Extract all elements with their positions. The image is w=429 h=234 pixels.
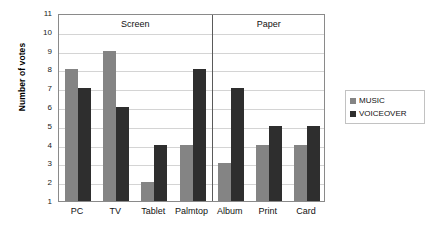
y-axis-tick: 8 — [28, 66, 52, 74]
x-axis-label-tablet: Tablet — [134, 206, 172, 217]
x-axis-label-card: Card — [287, 206, 325, 217]
x-axis-label-album: Album — [211, 206, 249, 217]
x-axis-label-palmtop: Palmtop — [172, 206, 210, 217]
x-axis-category-labels: PCTVTabletPalmtopAlbumPrintCard — [58, 206, 325, 222]
y-axis-tick: 2 — [28, 179, 52, 187]
bar-palmtop-voiceover — [193, 69, 206, 201]
bars-layer — [59, 15, 324, 201]
legend-label: MUSIC — [359, 96, 385, 105]
bar-album-music — [218, 163, 231, 201]
bar-palmtop-music — [180, 145, 193, 201]
legend-swatch-music-icon — [350, 98, 356, 104]
y-axis-tick: 3 — [28, 160, 52, 168]
chart-legend: MUSICVOICEOVER — [345, 90, 425, 124]
bar-card-voiceover — [307, 126, 320, 201]
bar-chart: Number of votes 1110987654321 ScreenPape… — [0, 0, 429, 234]
y-axis-title: Number of votes — [17, 17, 27, 137]
legend-label: VOICEOVER — [359, 109, 407, 118]
bar-tablet-voiceover — [154, 145, 167, 201]
bar-print-music — [256, 145, 269, 201]
plot-area: ScreenPaper — [58, 14, 325, 202]
x-axis-label-print: Print — [249, 206, 287, 217]
y-axis-tick: 5 — [28, 123, 52, 131]
legend-swatch-voiceover-icon — [350, 111, 356, 117]
bar-tv-voiceover — [116, 107, 129, 201]
bar-pc-voiceover — [78, 88, 91, 201]
legend-item-voiceover: VOICEOVER — [350, 107, 421, 120]
bar-album-voiceover — [231, 88, 244, 201]
y-axis-tick: 7 — [28, 85, 52, 93]
bar-tv-music — [103, 51, 116, 201]
y-axis-tick: 10 — [28, 29, 52, 37]
bar-print-voiceover — [269, 126, 282, 201]
y-axis-tick: 6 — [28, 104, 52, 112]
y-axis-tick-labels: 1110987654321 — [28, 14, 52, 202]
bar-pc-music — [65, 69, 78, 201]
y-axis-tick: 11 — [28, 10, 52, 18]
y-axis-tick: 4 — [28, 142, 52, 150]
y-axis-tick: 9 — [28, 48, 52, 56]
bar-card-music — [294, 145, 307, 201]
x-axis-label-pc: PC — [58, 206, 96, 217]
bar-tablet-music — [141, 182, 154, 201]
legend-item-music: MUSIC — [350, 94, 421, 107]
y-axis-tick: 1 — [28, 198, 52, 206]
x-axis-label-tv: TV — [96, 206, 134, 217]
